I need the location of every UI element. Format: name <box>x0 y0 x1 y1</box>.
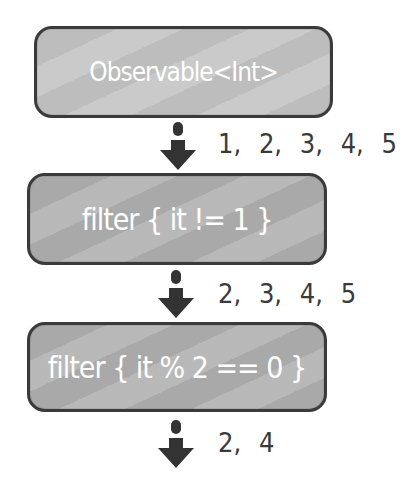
filter-not-one-node: filter { it != 1 } <box>27 173 327 265</box>
down-arrow-icon <box>158 420 194 468</box>
emitted-values: 2, 3, 4, 5 <box>218 278 356 309</box>
observable-source-node: Observable<Int> <box>34 26 333 118</box>
down-arrow-icon <box>160 122 196 170</box>
emitted-values: 2, 4 <box>218 427 274 458</box>
node-label: filter { it != 1 } <box>82 202 273 237</box>
down-arrow-icon <box>158 270 194 318</box>
node-label: filter { it % 2 == 0 } <box>48 350 306 385</box>
emitted-values: 1, 2, 3, 4, 5 <box>218 128 397 159</box>
node-label: Observable<Int> <box>89 57 277 87</box>
filter-even-node: filter { it % 2 == 0 } <box>27 322 327 412</box>
